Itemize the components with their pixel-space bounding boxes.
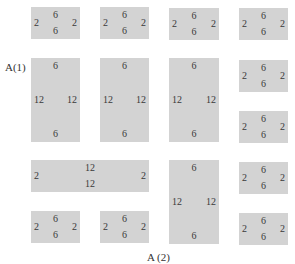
label-left: 12 (34, 95, 44, 105)
label-top: 6 (261, 11, 266, 21)
label-top: 6 (122, 61, 127, 71)
label-bottom: 6 (261, 232, 266, 242)
label-right: 2 (280, 224, 285, 234)
label-left: 2 (103, 18, 108, 28)
label-left: 12 (103, 95, 113, 105)
label-right: 2 (141, 18, 146, 28)
label-left: 2 (34, 171, 39, 181)
vertical-axis-label: A(1) (5, 61, 26, 73)
block-tall: 6 6 12 12 (169, 58, 219, 142)
label-bottom: 6 (192, 231, 197, 241)
label-right: 2 (280, 19, 285, 29)
label-bottom: 12 (85, 179, 95, 189)
label-right: 12 (67, 95, 77, 105)
block-small: 6 6 2 2 (239, 213, 288, 245)
label-left: 2 (242, 71, 247, 81)
block-small: 6 6 2 2 (239, 162, 288, 194)
label-bottom: 6 (261, 181, 266, 191)
label-top: 6 (53, 10, 58, 20)
block-small: 6 6 2 2 (31, 211, 80, 243)
block-tall: 6 6 12 12 (31, 58, 80, 142)
label-top: 6 (261, 114, 266, 124)
label-right: 2 (141, 222, 146, 232)
label-top: 6 (53, 61, 58, 71)
label-top: 6 (192, 11, 197, 21)
label-right: 2 (72, 18, 77, 28)
label-right: 2 (72, 222, 77, 232)
label-bottom: 6 (53, 129, 58, 139)
label-top: 6 (192, 163, 197, 173)
block-tall: 6 6 12 12 (169, 160, 219, 244)
label-top: 12 (85, 163, 95, 173)
label-bottom: 6 (192, 129, 197, 139)
label-right: 2 (280, 122, 285, 132)
block-small: 6 6 2 2 (239, 8, 288, 40)
label-left: 12 (172, 197, 182, 207)
label-left: 2 (242, 122, 247, 132)
label-bottom: 6 (261, 27, 266, 37)
label-bottom: 6 (53, 230, 58, 240)
label-right: 2 (280, 173, 285, 183)
label-top: 6 (261, 165, 266, 175)
label-left: 2 (34, 18, 39, 28)
label-bottom: 6 (261, 130, 266, 140)
label-left: 2 (242, 19, 247, 29)
block-small: 6 6 2 2 (31, 7, 80, 39)
block-small: 6 6 2 2 (169, 8, 219, 40)
block-tall: 6 6 12 12 (100, 58, 149, 142)
label-top: 6 (192, 61, 197, 71)
label-right: 12 (206, 95, 216, 105)
block-small: 6 6 2 2 (239, 111, 288, 143)
label-left: 2 (242, 224, 247, 234)
label-bottom: 6 (122, 230, 127, 240)
label-bottom: 6 (53, 26, 58, 36)
block-small: 6 6 2 2 (100, 211, 149, 243)
label-bottom: 6 (261, 79, 266, 89)
label-right: 2 (141, 171, 146, 181)
label-top: 6 (122, 10, 127, 20)
label-right: 12 (206, 197, 216, 207)
label-left: 12 (172, 95, 182, 105)
horizontal-axis-label: A (2) (147, 251, 170, 263)
label-bottom: 6 (192, 27, 197, 37)
block-wide: 12 12 2 2 (31, 160, 149, 192)
label-top: 6 (122, 214, 127, 224)
label-bottom: 6 (122, 129, 127, 139)
label-top: 6 (261, 63, 266, 73)
label-top: 6 (261, 216, 266, 226)
label-bottom: 6 (122, 26, 127, 36)
block-small: 6 6 2 2 (239, 60, 288, 92)
label-left: 2 (103, 222, 108, 232)
label-left: 2 (172, 19, 177, 29)
label-right: 12 (136, 95, 146, 105)
label-left: 2 (34, 222, 39, 232)
label-right: 2 (280, 71, 285, 81)
label-right: 2 (211, 19, 216, 29)
label-top: 6 (53, 214, 58, 224)
block-small: 6 6 2 2 (100, 7, 149, 39)
label-left: 2 (242, 173, 247, 183)
